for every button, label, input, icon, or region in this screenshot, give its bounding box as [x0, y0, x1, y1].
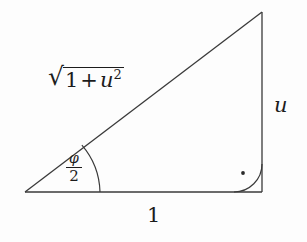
angle-fraction-numerator: φ [61, 151, 87, 166]
radical-sign-icon: √ [48, 65, 64, 89]
radicand-expression: 1+u2 [63, 67, 124, 91]
radicand-operator: + [80, 68, 98, 92]
right-angle-arc [234, 164, 262, 192]
radicand-exponent: 2 [113, 67, 121, 82]
angle-label: φ 2 [61, 151, 87, 184]
hypotenuse-label: √ 1+u2 [48, 66, 124, 90]
vertical-leg-label: u [274, 95, 288, 116]
radicand-first-term: 1 [65, 68, 78, 92]
radicand-variable: u [100, 68, 114, 92]
angle-fraction-denominator: 2 [61, 169, 87, 185]
figure-canvas: √ 1+u2 u 1 φ 2 [0, 0, 307, 242]
base-leg-label: 1 [147, 205, 160, 226]
right-angle-dot-icon [241, 171, 245, 175]
